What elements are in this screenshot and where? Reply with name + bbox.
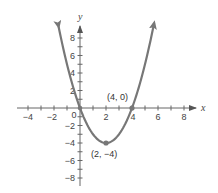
origin-point	[78, 106, 83, 111]
vertex-label: (2, −4)	[91, 149, 117, 159]
origin-label: 0	[71, 110, 76, 120]
x-tick-label: −4	[23, 112, 33, 122]
vertex-point	[103, 140, 108, 145]
x-tick-label: 6	[155, 112, 160, 122]
y-tick-label: 6	[70, 51, 75, 61]
y-tick-label: −8	[65, 173, 75, 183]
y-axis-label: y	[77, 11, 83, 22]
y-tick-label: −6	[65, 156, 75, 166]
x-tick-label: 4	[130, 112, 135, 122]
x-tick-label: 2	[103, 112, 108, 122]
x-intercept-point	[129, 105, 134, 110]
x-tick-label: 8	[181, 112, 186, 122]
y-axis: y 8 6 4 2 −2 −4 −6 −8	[65, 11, 83, 186]
y-tick-label: −2	[65, 121, 75, 131]
x-axis-label: x	[200, 102, 206, 113]
parabola-chart: x −4 −2 2 4 6 8 0	[0, 0, 218, 193]
x-tick-label: −2	[47, 112, 57, 122]
x-axis: x −4 −2 2 4 6 8 0	[17, 102, 206, 122]
y-tick-label: 8	[70, 33, 75, 43]
x-tick-labels: −4 −2 2 4 6 8	[23, 112, 187, 122]
y-tick-label: −4	[65, 138, 75, 148]
x-intercept-label: (4, 0)	[107, 92, 128, 102]
